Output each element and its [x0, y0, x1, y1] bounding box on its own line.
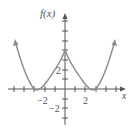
y-axis-label: f(x) — [40, 7, 56, 20]
chart: f(x) x −2 2 2 −2 — [0, 0, 130, 129]
y-tick-label-pos2: 2 — [56, 65, 61, 76]
x-tick-label-pos2: 2 — [83, 95, 88, 106]
x-axis — [8, 86, 126, 92]
y-axis — [62, 13, 68, 125]
x-axis-label: x — [121, 90, 127, 101]
y-tick-label-neg2: −2 — [49, 103, 60, 114]
y-axis-arrow-icon — [63, 13, 68, 19]
curve-right-arrow-icon — [112, 39, 118, 46]
x-tick-label-neg2: −2 — [37, 95, 48, 106]
curve-left-arrow-icon — [13, 39, 19, 46]
